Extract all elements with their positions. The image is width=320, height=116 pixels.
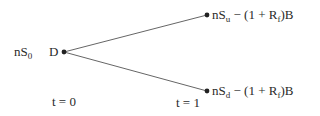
up-node-suffix-b: )B [280,7,293,22]
root-value-label: nS0 [14,45,32,59]
down-node-prefix: nS [212,83,226,98]
down-node-label: nSd − (1 + Rf)B [212,84,293,98]
time-label-t1: t = 1 [176,96,200,110]
up-node-label: nSu − (1 + Rf)B [212,8,293,22]
root-value-base: nS [14,44,28,59]
time-label-t0: t = 0 [52,95,76,109]
root-node-label: D [49,45,58,59]
down-node-suffix-a: − (1 + R [230,83,277,98]
up-node-prefix: nS [212,7,226,22]
up-node-suffix-a: − (1 + R [230,7,277,22]
down-node-dot [205,89,210,94]
root-value-sub: 0 [28,51,33,61]
up-node-dot [205,13,210,18]
down-branch [64,52,207,91]
up-branch [64,15,207,52]
down-node-suffix-b: )B [280,83,293,98]
root-node-dot [62,50,67,55]
